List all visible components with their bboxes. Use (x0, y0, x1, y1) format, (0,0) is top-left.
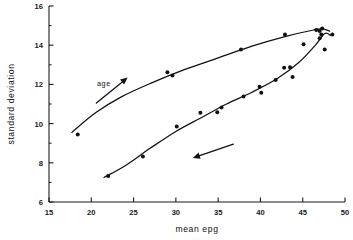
data-point-s1-3 (198, 111, 202, 115)
x-tick-label: 50 (341, 208, 349, 217)
data-point-s1-1 (141, 155, 145, 159)
data-point-s1-4 (215, 110, 219, 114)
y-tick-label: 16 (35, 2, 43, 11)
data-point-s1-0 (106, 174, 110, 178)
x-axis-title: mean epg (175, 224, 218, 234)
data-point-s1-2 (175, 125, 179, 129)
data-point-s1-14 (318, 36, 322, 40)
data-point-s1-15 (323, 48, 327, 52)
annotation-arrow-line-1 (198, 144, 233, 156)
data-point-s1-12 (291, 75, 295, 79)
data-point-s0-3 (239, 48, 243, 52)
data-point-s0-4 (283, 32, 287, 36)
annotation-label-0: age (97, 79, 111, 88)
data-point-s0-9 (330, 32, 334, 36)
data-point-s1-11 (288, 65, 292, 69)
y-tick-label: 6 (39, 198, 43, 207)
x-tick-label: 40 (256, 208, 264, 217)
x-tick-label: 15 (45, 208, 54, 217)
y-tick-label: 14 (35, 41, 44, 50)
data-point-s1-9 (274, 78, 278, 82)
x-tick-label: 25 (129, 208, 138, 217)
data-point-s1-5 (220, 106, 224, 110)
data-points (76, 27, 335, 178)
axis-labels: 15202530354045506810121416mean epgstanda… (6, 2, 349, 234)
y-tick-label: 10 (35, 120, 43, 129)
x-tick-label: 45 (298, 208, 307, 217)
annotation-arrow-head-1 (193, 153, 201, 159)
x-tick-label: 30 (172, 208, 180, 217)
data-point-s1-10 (282, 66, 286, 70)
y-tick-label: 12 (35, 80, 43, 89)
data-point-s0-0 (76, 132, 80, 136)
annotations: age (96, 78, 233, 159)
y-axis-title: standard deviation (6, 63, 16, 144)
data-point-s1-6 (242, 95, 246, 99)
data-point-s1-8 (259, 91, 263, 95)
chart-figure: age 15202530354045506810121416mean epgst… (0, 0, 353, 240)
y-tick-label: 8 (39, 159, 43, 168)
x-tick-label: 35 (214, 208, 223, 217)
data-point-s0-1 (165, 70, 169, 74)
axes (49, 6, 345, 202)
data-point-s1-13 (302, 42, 306, 46)
data-point-s0-7 (319, 32, 323, 36)
fitted-curve-1 (104, 33, 331, 178)
data-point-s1-7 (258, 85, 262, 89)
scatter-plot: age 15202530354045506810121416mean epgst… (0, 0, 353, 240)
x-tick-label: 20 (87, 208, 95, 217)
data-point-s0-2 (170, 74, 174, 78)
data-point-s0-8 (320, 27, 324, 31)
